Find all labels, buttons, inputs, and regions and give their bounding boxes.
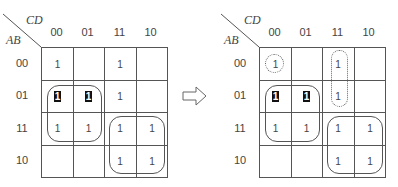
group-loop [47,85,102,142]
kmap-cell: 1 [42,48,73,80]
row-header: 01 [230,89,250,101]
row-header: 11 [12,122,32,134]
kmap-cell: 1 [104,48,136,80]
dotted-group-circle [265,54,284,73]
group-loop [109,116,165,174]
row-header: 00 [230,57,250,69]
cell-value: 1 [55,59,61,70]
col-header: 10 [353,26,384,38]
col-header: 01 [72,26,103,38]
col-header: 10 [135,26,166,38]
right-arrow-icon [182,86,208,106]
col-header: 00 [41,26,72,38]
row-header: 10 [12,154,32,166]
row-variable-label: AB [224,33,239,48]
kmap-cell: 1 [104,80,136,112]
dotted-group-oval [331,50,348,107]
cell-value: 1 [117,91,123,102]
row-variable-label: AB [6,33,21,48]
right-karnaugh-map: CD AB 00 01 11 10 00 01 11 10 1 1 1 1 1 … [218,0,398,187]
row-header: 00 [12,57,32,69]
row-header: 10 [230,154,250,166]
cell-value: 1 [117,59,123,70]
left-karnaugh-map: CD AB 00 01 11 10 00 01 11 10 1 1 1 1 1 … [0,0,200,187]
col-header: 01 [290,26,321,38]
col-header: 00 [259,26,290,38]
group-loop [265,85,320,142]
col-header: 11 [322,26,353,38]
col-header: 11 [104,26,135,38]
row-header: 01 [12,89,32,101]
group-loop [327,116,383,174]
row-header: 11 [230,122,250,134]
